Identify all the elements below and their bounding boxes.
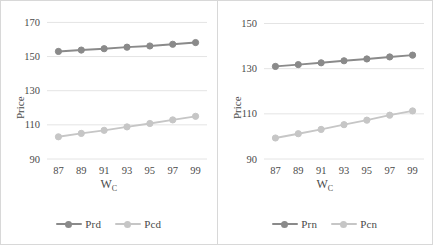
y-axis-label-text-left: Price (14, 96, 26, 119)
legend-marker-prn-icon (272, 219, 298, 229)
x-tick-label: 97 (384, 165, 395, 176)
legend-item-prd[interactable]: Prd (56, 218, 101, 230)
data-point-prd (55, 48, 61, 54)
data-point-pcd (55, 134, 61, 140)
x-tick-label: 89 (293, 165, 304, 176)
data-point-pcn (318, 126, 324, 132)
data-point-prd (78, 47, 84, 53)
data-point-prd (147, 43, 153, 49)
legend-item-prn[interactable]: Prn (272, 218, 317, 230)
data-point-pcn (340, 122, 346, 128)
data-point-prn (386, 54, 392, 60)
data-point-prd (192, 39, 198, 45)
data-point-pcn (409, 108, 415, 114)
y-tick-label: 150 (24, 51, 40, 62)
y-axis-label-text-right: Price (231, 96, 243, 119)
plot-area-left: 9011013015017087899193959799 (1, 1, 217, 201)
legend-marker-pcd-icon (115, 219, 141, 229)
x-tick-label: 93 (122, 165, 133, 176)
data-point-pcn (295, 131, 301, 137)
y-tick-label: 130 (24, 85, 40, 96)
x-tick-label: 97 (167, 165, 178, 176)
x-tick-label: 87 (270, 165, 281, 176)
x-axis-label-base-left: W (100, 177, 111, 191)
data-point-pcd (170, 117, 176, 123)
legend-item-pcn[interactable]: Pcn (331, 218, 377, 230)
legend-label-pcn: Pcn (360, 218, 377, 230)
legend-label-pcd: Pcd (144, 218, 161, 230)
plot-area-right: 9011013015087899193959799 (218, 1, 433, 201)
x-tick-label: 99 (190, 165, 201, 176)
x-tick-label: 95 (361, 165, 372, 176)
legend-marker-prd-icon (56, 219, 82, 229)
x-tick-label: 93 (338, 165, 349, 176)
x-tick-label: 91 (99, 165, 110, 176)
y-tick-label: 90 (30, 154, 41, 165)
data-point-pcn (272, 135, 278, 141)
chart-panel-right: 9011013015087899193959799 Price WC Prn (217, 0, 433, 245)
x-axis-label-base-right: W (316, 177, 327, 191)
x-axis-label-left: WC (1, 177, 217, 193)
data-point-prd (170, 41, 176, 47)
data-point-prd (101, 46, 107, 52)
y-tick-label: 150 (241, 18, 257, 29)
x-axis-label-right: WC (218, 177, 433, 193)
legend-right: Prn Pcn (218, 218, 433, 230)
data-point-pcd (78, 130, 84, 136)
x-axis-label-sub-right: C (328, 184, 333, 193)
line-chart-right: 9011013015087899193959799 (218, 1, 433, 201)
x-axis-label-sub-left: C (112, 184, 117, 193)
data-point-pcd (147, 120, 153, 126)
data-point-prn (295, 62, 301, 68)
x-tick-label: 99 (407, 165, 418, 176)
line-chart-left: 9011013015017087899193959799 (1, 1, 217, 201)
y-tick-label: 110 (241, 108, 256, 119)
x-tick-label: 91 (315, 165, 326, 176)
y-axis-label-right: Price (231, 96, 243, 119)
data-point-prn (272, 63, 278, 69)
legend-left: Prd Pcd (1, 218, 217, 230)
data-point-pcn (386, 112, 392, 118)
y-tick-label: 170 (24, 17, 40, 28)
data-point-prn (409, 52, 415, 58)
legend-item-pcd[interactable]: Pcd (115, 218, 161, 230)
data-point-pcd (101, 127, 107, 133)
y-tick-label: 130 (241, 63, 257, 74)
data-point-pcd (124, 124, 130, 130)
x-tick-label: 95 (145, 165, 156, 176)
y-tick-label: 90 (246, 154, 257, 165)
data-point-pcn (363, 117, 369, 123)
x-tick-label: 89 (76, 165, 87, 176)
data-point-prn (340, 58, 346, 64)
data-point-pcd (192, 113, 198, 119)
data-point-prn (318, 60, 324, 66)
x-tick-label: 87 (53, 165, 64, 176)
data-point-prd (124, 44, 130, 50)
y-tick-label: 110 (25, 119, 40, 130)
legend-label-prd: Prd (85, 218, 101, 230)
data-point-prn (363, 56, 369, 62)
legend-label-prn: Prn (301, 218, 317, 230)
chart-panel-left: 9011013015017087899193959799 Price WC Pr… (0, 0, 217, 245)
legend-marker-pcn-icon (331, 219, 357, 229)
figure-two-panel-line-charts: 9011013015017087899193959799 Price WC Pr… (0, 0, 433, 245)
y-axis-label-left: Price (14, 96, 26, 119)
